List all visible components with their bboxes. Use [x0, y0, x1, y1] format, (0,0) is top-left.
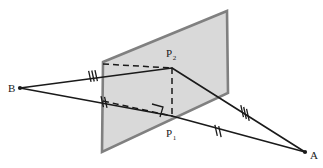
tick-double-p1-a-stroke-1 [215, 125, 217, 136]
tick-double-p1-a-stroke-2 [219, 126, 221, 137]
point-dot-b [18, 86, 22, 90]
tick-triple-b-p2-stroke-3 [95, 70, 97, 81]
point-label-b: B [8, 82, 15, 94]
geometry-figure: ABP2P1 [0, 0, 323, 168]
segment-p1-to-a [172, 116, 305, 152]
tick-triple-b-p2-stroke-2 [92, 71, 94, 82]
point-label-a: A [310, 149, 318, 161]
tick-triple-b-p2-stroke-1 [89, 71, 91, 82]
point-label-p1: P1 [166, 127, 177, 142]
diagram-canvas: ABP2P1 [0, 0, 323, 168]
plane-layer [102, 11, 228, 152]
point-dot-a [303, 150, 307, 154]
bisecting-plane [102, 11, 228, 152]
